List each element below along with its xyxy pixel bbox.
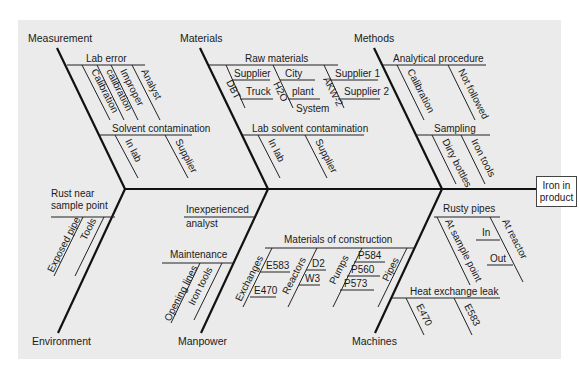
subcause-supplier: Supplier xyxy=(173,137,200,175)
bone-methods xyxy=(374,48,442,189)
category-methods: Methods Analytical procedure Calibration… xyxy=(354,32,498,189)
cause-rust-near-label-line1: Rust near xyxy=(51,188,95,199)
subcause-in-lab: In lab xyxy=(123,137,144,164)
subcause-supplier: Supplier xyxy=(234,68,271,79)
cause-lab-error: Lab error xyxy=(86,53,127,64)
category-label-measurement: Measurement xyxy=(28,32,92,44)
subcause-at-sample-point: At sample point xyxy=(443,217,484,284)
cause-sampling: Sampling xyxy=(434,123,476,134)
subcause-supplier-1: Supplier 1 xyxy=(335,68,380,79)
subcause-in: In xyxy=(482,227,490,238)
subcause-iron-tools: Iron tools xyxy=(469,137,497,179)
category-label-environment: Environment xyxy=(32,335,91,347)
subcause-e470: E470 xyxy=(254,285,278,296)
category-measurement: Measurement Lab error Calibration calibr… xyxy=(28,32,210,189)
effect-label-line1: Iron in xyxy=(537,180,576,192)
subcause-e470: E470 xyxy=(414,302,435,328)
cause-rust-near-label-line2: sample point xyxy=(51,200,108,211)
category-label-machines: Machines xyxy=(352,335,397,347)
cause-rusty-pipes: Rusty pipes xyxy=(443,203,495,214)
cause-heat-exchange-leak: Heat exchange leak xyxy=(410,286,499,297)
category-label-materials: Materials xyxy=(180,32,223,44)
subcause-w3: W3 xyxy=(305,273,320,284)
subcause-plant: plant xyxy=(292,86,314,97)
subcause-e583: E583 xyxy=(266,260,290,271)
cause-materials-of-construction: Materials of construction xyxy=(284,234,392,245)
cause-maintenance: Maintenance xyxy=(170,249,228,260)
bone-machines xyxy=(375,189,442,333)
category-materials: Materials Raw materials DBT Supplier Tru… xyxy=(180,32,389,189)
subcause-p560: P560 xyxy=(351,264,375,275)
subcause-not-followed: Not followed xyxy=(456,67,491,121)
category-machines: Machines Materials of construction Excha… xyxy=(233,189,530,347)
subcause-p584: P584 xyxy=(358,250,382,261)
cause-lab-solvent-contamination: Lab solvent contamination xyxy=(252,123,368,134)
subcause-e583: E583 xyxy=(462,302,483,328)
cause-raw-materials: Raw materials xyxy=(245,53,308,64)
cause-inexperienced-line2: analyst xyxy=(186,218,218,229)
subcause-truck: Truck xyxy=(246,86,272,97)
effect-label-line2: product xyxy=(537,192,576,204)
subcause-exposed-pipe: Exposed pipe xyxy=(45,215,83,274)
subcause-system: System xyxy=(296,103,329,114)
effect-box: Iron in product xyxy=(536,176,577,207)
subcause-pipes: Pipes xyxy=(380,256,401,283)
subcause-out: Out xyxy=(490,253,506,264)
category-label-manpower: Manpower xyxy=(178,335,228,347)
cause-solvent-contamination: Solvent contamination xyxy=(112,123,210,134)
subcause-city: City xyxy=(285,68,302,79)
category-environment: Environment Rust near sample point Expos… xyxy=(32,188,125,347)
subcause-supplier-2: Supplier 2 xyxy=(344,86,389,97)
subcause-supplier: Supplier xyxy=(313,137,340,175)
cause-inexperienced-line1: Inexperienced xyxy=(186,204,249,215)
category-label-methods: Methods xyxy=(354,32,394,44)
subcause-d2: D2 xyxy=(312,258,325,269)
fishbone-diagram: Measurement Lab error Calibration calibr… xyxy=(0,0,579,374)
subcause-h2o: H2O xyxy=(271,80,290,104)
cause-analytical-procedure: Analytical procedure xyxy=(393,53,484,64)
subcause-p573: P573 xyxy=(344,278,368,289)
subcause-in-lab: In lab xyxy=(266,137,287,164)
